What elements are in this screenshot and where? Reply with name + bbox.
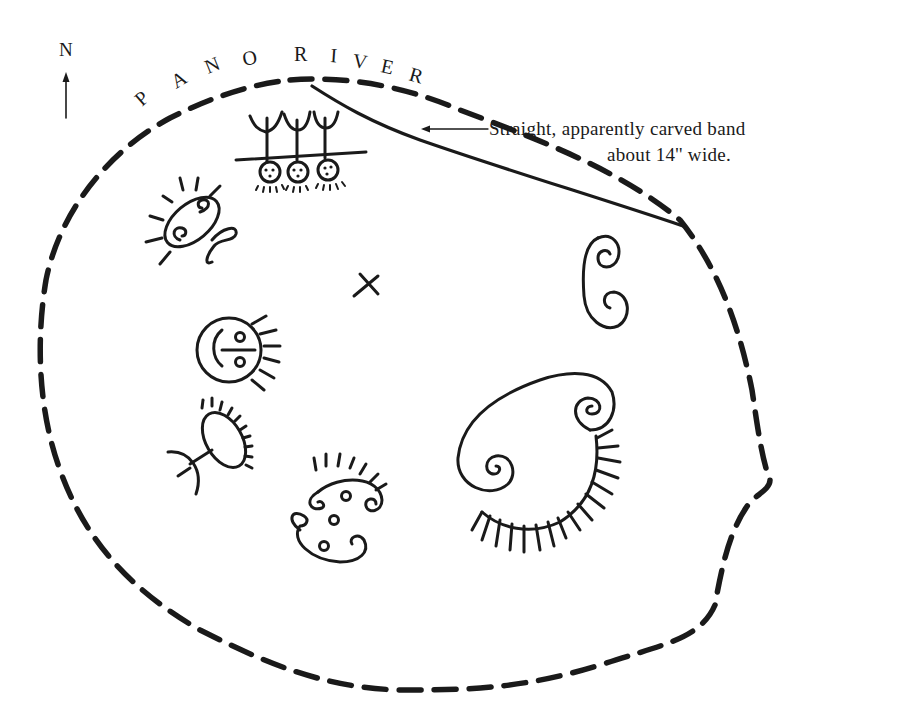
large-double-spiral-rayed-figure	[458, 374, 620, 552]
x-mark	[354, 274, 378, 296]
rayed-face-circle	[197, 316, 280, 390]
three-trident-figures	[236, 112, 366, 192]
north-label: N	[59, 39, 73, 60]
rayed-oval-with-stem	[168, 398, 255, 494]
rayed-spiral-figure-left	[146, 178, 236, 264]
river-label: P A N O R I V E R	[130, 43, 426, 110]
annotation-line-1: Straight, apparently carved band	[489, 117, 908, 141]
svg-text:N: N	[201, 52, 223, 78]
annotation-arrow	[421, 126, 488, 133]
carved-band-annotation: Straight, apparently carved band about 1…	[489, 117, 908, 167]
north-arrow: N	[59, 39, 73, 118]
svg-text:E: E	[379, 54, 396, 78]
svg-text:I: I	[330, 44, 338, 66]
svg-text:R: R	[407, 63, 427, 88]
rock-outline-dashed	[40, 79, 770, 690]
svg-text:O: O	[240, 45, 259, 70]
petroglyph-map: N P A N O R I V E R	[0, 0, 908, 722]
double-spiral-right	[583, 236, 627, 327]
svg-text:V: V	[351, 49, 369, 73]
svg-text:P: P	[130, 86, 153, 110]
annotation-line-2: about 14'' wide.	[489, 143, 908, 167]
svg-text:R: R	[294, 43, 308, 65]
svg-text:A: A	[167, 66, 191, 93]
rayed-dotted-spiral-figure	[292, 454, 386, 562]
